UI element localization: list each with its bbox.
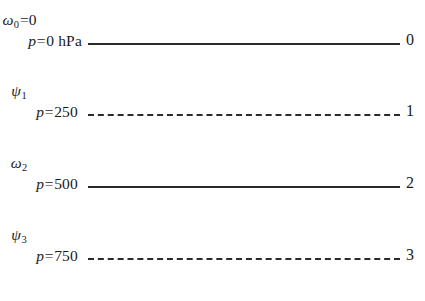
pressure-label-2: p=500 <box>36 175 82 193</box>
pressure-value: 750 <box>54 247 78 264</box>
field-symbol: ψ <box>11 82 21 99</box>
pressure-variable: p <box>28 32 36 49</box>
pressure-equals: = <box>37 32 46 49</box>
pressure-equals: = <box>45 175 54 192</box>
pressure-equals: = <box>45 247 54 264</box>
field-symbol: ω <box>2 11 13 28</box>
level-line-dashed <box>88 258 400 260</box>
pressure-variable: p <box>36 103 44 120</box>
field-symbol: ψ <box>11 226 21 243</box>
pressure-value: 500 <box>54 175 78 192</box>
pressure-label-1: p=250 <box>36 103 82 121</box>
field-extra: =0 <box>20 11 37 28</box>
field-subscript: 0 <box>14 19 19 30</box>
level-line-dashed <box>88 114 400 116</box>
pressure-equals: = <box>45 103 54 120</box>
level-line-solid <box>88 186 400 188</box>
pressure-variable: p <box>36 175 44 192</box>
field-symbol: ω <box>11 154 22 171</box>
field-subscript: 1 <box>21 90 26 101</box>
field-label-2: ω2 <box>0 154 425 173</box>
field-subscript: 2 <box>22 162 27 173</box>
pressure-label-0: p=0hPa <box>28 32 82 50</box>
level-index-0: 0 <box>406 31 414 49</box>
pressure-value: 0 <box>46 32 54 49</box>
field-label-3: ψ3 <box>0 226 425 245</box>
pressure-variable: p <box>36 247 44 264</box>
pressure-label-3: p=750 <box>36 247 82 265</box>
pressure-unit: hPa <box>58 32 82 49</box>
field-label-0: ω0=0 <box>0 11 425 30</box>
level-index-3: 3 <box>406 246 414 264</box>
field-label-1: ψ1 <box>0 82 425 101</box>
pressure-value: 250 <box>54 103 78 120</box>
pressure-level-diagram: ω0=0 p=0hPa 0 ψ1 p=250 1 ω2 p=500 <box>0 0 425 301</box>
level-index-2: 2 <box>406 174 414 192</box>
field-subscript: 3 <box>21 234 26 245</box>
level-line-solid <box>88 43 400 45</box>
level-index-1: 1 <box>406 102 414 120</box>
